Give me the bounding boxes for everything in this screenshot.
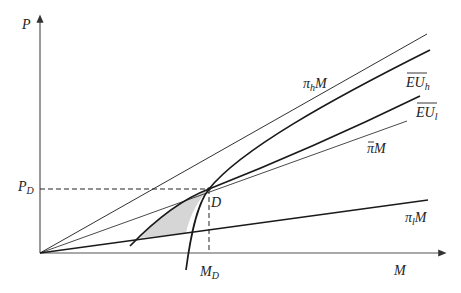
pi-l-line bbox=[40, 200, 428, 253]
pi-h-label: πhM bbox=[303, 76, 328, 93]
pi-bar-label: πM bbox=[367, 141, 387, 156]
eu-l-label: EUl bbox=[415, 103, 438, 122]
x-axis-label: M bbox=[393, 263, 407, 278]
point-d bbox=[207, 187, 211, 191]
svg-text:EUl: EUl bbox=[415, 105, 438, 122]
pi-l-label: πlM bbox=[405, 210, 428, 227]
md-label: MD bbox=[199, 264, 220, 281]
eu-h-label: EUh bbox=[405, 73, 430, 92]
pd-label: PD bbox=[17, 179, 35, 196]
svg-text:EUh: EUh bbox=[405, 75, 430, 92]
d-label: D bbox=[210, 195, 221, 210]
diagram-canvas: P M PD MD D πhM EUh EUl πM πlM bbox=[0, 0, 461, 293]
y-axis-label: P bbox=[21, 17, 31, 32]
pi-bar-line bbox=[40, 121, 407, 253]
svg-text:πM: πM bbox=[367, 141, 387, 156]
